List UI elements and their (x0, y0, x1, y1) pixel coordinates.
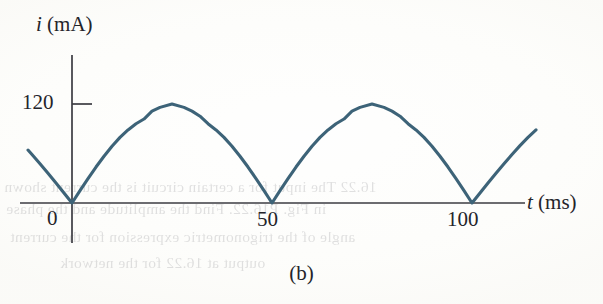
x-tick-label-0: 0 (47, 208, 58, 229)
rectified-sine-curve (28, 104, 536, 203)
y-axis-unit: (mA) (47, 12, 93, 36)
figure-page: 16.22 The input for a certain circuit is… (0, 0, 603, 304)
y-axis-label: i (mA) (36, 14, 93, 35)
waveform-plot (0, 0, 603, 304)
x-tick-label-50: 50 (257, 209, 278, 230)
x-tick-label-100: 100 (447, 209, 479, 230)
figure-caption: (b) (0, 263, 603, 284)
x-axis-unit: (ms) (538, 190, 577, 214)
x-axis-label: t (ms) (527, 192, 577, 213)
y-tick-label-120: 120 (22, 92, 54, 113)
